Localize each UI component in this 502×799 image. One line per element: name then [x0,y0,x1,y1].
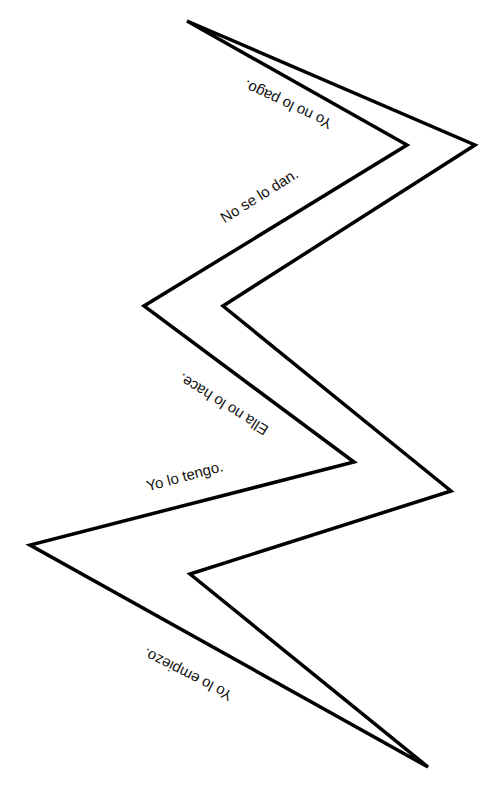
lightning-bolt-outline [30,21,475,767]
sentence-yo-lo-empiezo: Yo lo empiezo. [140,645,235,705]
sentence-yo-lo-tengo: Yo lo tengo. [144,457,224,494]
zigzag-diagram: Yo no lo pago. No se lo dan. Ella no lo … [0,0,502,799]
